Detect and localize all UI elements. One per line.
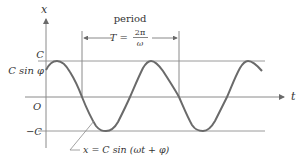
lower-amplitude-label: −C [26,126,42,137]
period-caption: period [114,13,147,24]
sinusoid-curve [46,61,262,131]
initial-displacement-label: C sin φ [8,65,44,76]
x-axis-label: x [41,3,48,16]
oscillation-diagram: x t O C C sin φ −C period T = 2π ω x = C… [0,0,307,164]
period-denominator: ω [137,39,144,48]
upper-amplitude-label: C [36,49,44,60]
t-axis-label: t [291,90,296,103]
equation-label: x = C sin (ωt + φ) [83,144,170,155]
period-numerator: 2π [135,28,145,37]
origin-label: O [33,101,41,112]
period-lhs: T = [110,32,128,43]
